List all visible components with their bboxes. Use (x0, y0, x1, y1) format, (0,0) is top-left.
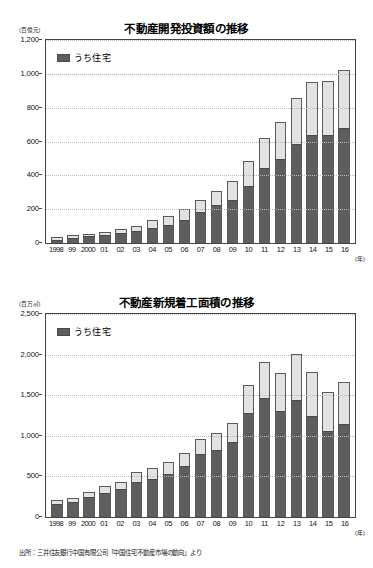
bar-segment-housing (260, 168, 269, 243)
chart-1-title: 不動産開発投資額の推移 (0, 22, 373, 36)
gridline (46, 142, 355, 143)
x-axis-tick-label: 08 (208, 519, 224, 528)
bar-segment-other (339, 383, 348, 424)
y-axis-tick-label: 500 (27, 471, 39, 480)
bar-segment-housing (276, 411, 285, 517)
bar-segment-housing (276, 159, 285, 243)
bar-segment-other (132, 473, 141, 482)
y-axis-tick-mark (39, 516, 42, 517)
bar-slot (65, 314, 81, 517)
y-axis-tick-mark (39, 475, 42, 476)
bar-segment-other (260, 139, 269, 167)
bar-segment-other (196, 201, 205, 213)
bar-slot (272, 314, 288, 517)
chart-1-plot-area (45, 39, 356, 244)
bar-segment-other (292, 99, 301, 144)
x-axis-tick-label: 11 (257, 245, 273, 254)
chart-1-legend: うち住宅 (57, 51, 111, 64)
chart-2-y-axis: 05001,0001,5002,0002,500 (0, 313, 42, 518)
stacked-bar (163, 216, 174, 243)
bar-segment-housing (307, 135, 316, 243)
gridline (46, 314, 355, 315)
y-axis-tick-label: 600 (27, 136, 39, 145)
chart-1-y-axis: 02004006008001,0001,200 (0, 39, 42, 244)
gridline (46, 395, 355, 396)
x-axis-tick-label: 14 (305, 245, 321, 254)
bar-segment-housing (100, 235, 109, 243)
bar-slot (129, 314, 145, 517)
bar-segment-housing (116, 489, 125, 517)
stacked-bar (306, 82, 317, 243)
y-axis-tick-mark (39, 107, 42, 108)
bar-segment-housing (132, 231, 141, 243)
y-axis-tick-label: 800 (27, 102, 39, 111)
bar-segment-other (196, 440, 205, 454)
bar-segment-housing (196, 212, 205, 243)
bar-segment-other (339, 71, 348, 128)
legend-swatch-housing-icon (57, 54, 70, 62)
bar-segment-other (180, 454, 189, 466)
x-axis-tick-label: 09 (225, 519, 241, 528)
bar-slot (81, 314, 97, 517)
y-axis-tick-mark (39, 141, 42, 142)
stacked-bar (275, 122, 286, 243)
x-axis-tick-label: 01 (96, 245, 112, 254)
y-axis-tick-mark (39, 354, 42, 355)
x-axis-tick-label: 99 (64, 519, 80, 528)
y-axis-tick-mark (39, 242, 42, 243)
bar-segment-housing (180, 466, 189, 517)
stacked-bar (83, 492, 94, 517)
y-axis-tick-label: 2,000 (20, 349, 39, 358)
stacked-bar (67, 235, 78, 243)
bar-segment-housing (307, 416, 316, 517)
y-axis-tick-mark (39, 435, 42, 436)
bar-segment-other (212, 192, 221, 206)
y-axis-tick-mark (39, 73, 42, 74)
bar-segment-other (148, 221, 157, 228)
bar-segment-housing (148, 479, 157, 517)
gridline (46, 476, 355, 477)
bar-segment-housing (212, 205, 221, 243)
legend-label-housing: うち住宅 (74, 51, 111, 64)
stacked-bar (211, 433, 222, 517)
bar-segment-housing (339, 424, 348, 517)
y-axis-tick-label: 1,000 (20, 430, 39, 439)
stacked-bar (147, 468, 158, 517)
stacked-bar (227, 181, 238, 243)
stacked-bar (338, 70, 349, 243)
bar-segment-housing (164, 225, 173, 243)
y-axis-tick-label: 1,200 (20, 35, 39, 44)
chart-2-x-unit-label: (年) (355, 528, 365, 537)
bar-segment-housing (52, 240, 61, 243)
bar-slot (113, 314, 129, 517)
bar-segment-other (323, 393, 332, 431)
stacked-bar (322, 392, 333, 517)
x-axis-tick-label: 05 (160, 245, 176, 254)
stacked-bar (67, 498, 78, 517)
x-axis-tick-label: 02 (112, 245, 128, 254)
stacked-bar (338, 382, 349, 517)
y-axis-tick-label: 2,500 (20, 309, 39, 318)
stacked-bar (259, 138, 270, 243)
bar-slot (320, 314, 336, 517)
x-axis-tick-label: 13 (289, 245, 305, 254)
chart-2-y-unit-label: (百万㎡) (19, 300, 40, 308)
stacked-bar (51, 500, 62, 517)
bar-segment-housing (148, 228, 157, 243)
stacked-bar (211, 191, 222, 243)
stacked-bar (147, 220, 158, 243)
x-axis-tick-label: 04 (144, 245, 160, 254)
stacked-bar (115, 482, 126, 517)
bar-segment-housing (292, 400, 301, 517)
y-axis-tick-label: 400 (27, 170, 39, 179)
bar-segment-other (244, 162, 253, 186)
x-axis-tick-label: 10 (241, 245, 257, 254)
bar-slot (240, 314, 256, 517)
bar-slot (177, 314, 193, 517)
chart-1-x-axis: 1998992000010203040506070809101112131415… (45, 245, 356, 254)
chart-real-estate-development-investment: 不動産開発投資額の推移 (百億元) 02004006008001,0001,20… (0, 14, 373, 284)
stacked-bar (115, 229, 126, 243)
stacked-bar (99, 232, 110, 243)
legend-label-housing: うち住宅 (74, 325, 111, 338)
x-axis-tick-label: 09 (225, 245, 241, 254)
